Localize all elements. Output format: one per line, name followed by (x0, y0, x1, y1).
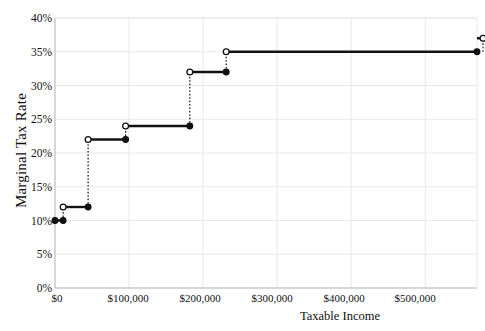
marker-open-endpoint (85, 137, 91, 143)
marker-open-endpoint (480, 35, 485, 41)
marker-closed-endpoint (474, 49, 480, 55)
gridlines (55, 18, 477, 288)
marker-closed-endpoint (123, 137, 129, 143)
marker-closed-endpoint (52, 218, 58, 224)
plot-area (0, 0, 485, 331)
marginal-tax-rate-chart: Marginal Tax Rate 0% 5% 10% 15% 20% 25% … (0, 0, 485, 331)
marker-open-endpoint (187, 69, 193, 75)
marker-closed-endpoint (187, 123, 193, 129)
marker-open-endpoint (60, 204, 66, 210)
step-markers (52, 35, 485, 223)
step-lines (55, 38, 483, 220)
marker-closed-endpoint (85, 204, 91, 210)
marker-closed-endpoint (223, 69, 229, 75)
marker-open-endpoint (223, 49, 229, 55)
marker-open-endpoint (123, 123, 129, 129)
marker-closed-endpoint (60, 218, 66, 224)
